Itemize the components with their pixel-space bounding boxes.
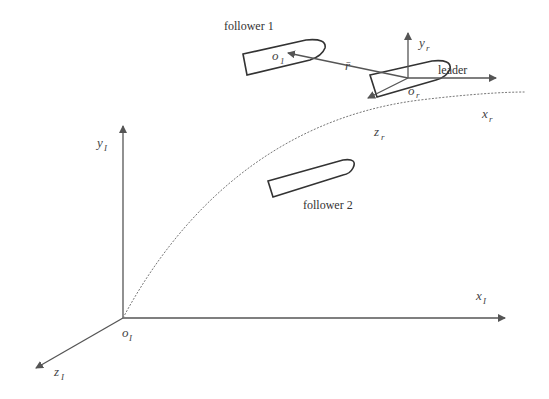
svg-text:x: x xyxy=(481,106,488,121)
xI-symbol: x I xyxy=(475,288,487,306)
yI-symbol: y I xyxy=(95,135,108,153)
svg-text:y: y xyxy=(95,135,103,150)
svg-text:o: o xyxy=(272,48,279,63)
xr-symbol: x r xyxy=(481,106,493,124)
svg-text:I: I xyxy=(128,333,133,343)
svg-text:I: I xyxy=(103,143,108,153)
svg-text:x: x xyxy=(475,288,482,303)
z-inertial-axis xyxy=(36,318,123,368)
svg-text:y: y xyxy=(417,35,425,50)
zr-symbol: z r xyxy=(373,124,385,142)
inertial-frame xyxy=(36,126,505,368)
oI-symbol: o I xyxy=(122,325,133,343)
follower-2-hull xyxy=(268,160,354,197)
svg-text:r: r xyxy=(489,114,493,124)
svg-text:1: 1 xyxy=(280,56,285,66)
svg-text:r: r xyxy=(426,43,430,53)
svg-text:r: r xyxy=(381,132,385,142)
formation-diagram: follower 1 follower 2 leader o 1 o r r̄ … xyxy=(0,0,549,399)
zI-symbol: z I xyxy=(53,364,65,382)
svg-text:z: z xyxy=(373,124,379,139)
follower-1-label: follower 1 xyxy=(224,19,274,33)
leader-label: leader xyxy=(438,63,467,77)
svg-text:o: o xyxy=(122,325,129,340)
svg-text:z: z xyxy=(53,364,59,379)
svg-text:r: r xyxy=(416,90,420,100)
svg-text:I: I xyxy=(482,296,487,306)
yr-symbol: y r xyxy=(417,35,430,53)
svg-text:o: o xyxy=(408,83,415,98)
follower-2-label: follower 2 xyxy=(303,198,353,212)
svg-text:I: I xyxy=(60,372,65,382)
